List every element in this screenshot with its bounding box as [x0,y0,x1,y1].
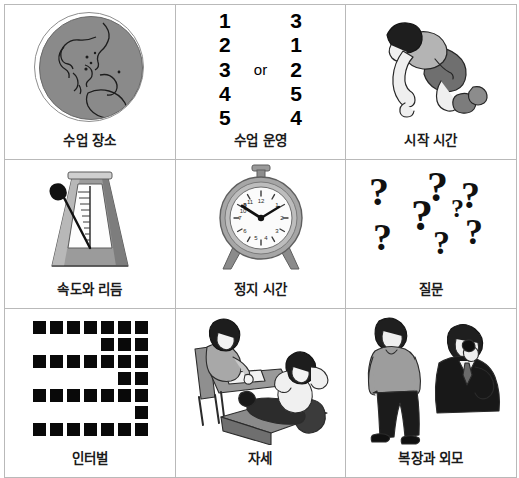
tempo-rhythm-art [5,160,175,280]
cell-lesson-operation[interactable]: 1 2 3 4 5 or 3 1 2 5 4 [176,5,346,160]
interval-cell-empty [118,406,131,419]
globe-icon [34,12,146,124]
cell-caption: 수업 장소 [61,131,118,155]
question-mark-small: ? [451,196,464,222]
interval-cell-filled [33,355,46,368]
cell-caption: 수업 운영 [232,131,289,155]
metronome-icon [34,162,146,278]
conjunction-label: or [254,61,267,78]
lesson-place-art [5,5,175,131]
grid-row-1: 수업 장소 1 2 3 4 5 or [5,5,517,160]
interval-cell-filled [135,423,148,436]
interval-cell-filled [118,389,131,402]
interval-cell-filled [101,423,114,436]
cell-interval[interactable]: 인터벌 [5,308,176,477]
left-sequence: 1 2 3 4 5 [216,9,234,131]
posture-art [176,309,345,449]
interval-cell-filled [67,355,80,368]
interval-cell-filled [118,355,131,368]
seq-item: 3 [287,9,305,33]
cell-questions[interactable]: ? ? ? ? ? ? ? ? 질문 [346,159,517,308]
interval-cell-filled [67,321,80,334]
question-mark: ? [373,218,392,256]
seq-item: 2 [287,58,305,82]
interval-cell-empty [33,372,46,385]
seq-item: 5 [216,106,234,130]
svg-text:11: 11 [246,199,253,205]
interval-cell-empty [67,372,80,385]
interval-cell-filled [67,389,80,402]
interval-cell-empty [33,338,46,351]
interval-cell-filled [84,321,97,334]
cell-lesson-place[interactable]: 수업 장소 [5,5,176,160]
cell-caption: 질문 [417,280,446,304]
seq-item: 4 [287,106,305,130]
globe-sphere [39,16,143,120]
interval-cell-filled [50,423,63,436]
interval-cell-filled [101,389,114,402]
interval-grid-icon [33,321,148,436]
cell-stop-time[interactable]: 12 1 2 3 4 5 6 7 8 9 10 11 [176,159,346,308]
interval-cell-empty [33,406,46,419]
cell-caption: 속도와 리듬 [55,280,125,304]
seq-item: 5 [287,82,305,106]
interval-cell-filled [101,321,114,334]
interval-cell-empty [50,338,63,351]
lesson-operation-art: 1 2 3 4 5 or 3 1 2 5 4 [176,5,345,131]
attire-art [346,309,516,449]
stop-time-art: 12 1 2 3 4 5 6 7 8 9 10 11 [176,160,345,280]
question-mark: ? [465,214,483,250]
interval-art [5,309,175,449]
ordered-list-icon: 1 2 3 4 5 or 3 1 2 5 4 [216,9,305,131]
interval-cell-filled [118,372,131,385]
interval-cell-empty [84,338,97,351]
interval-cell-filled [135,355,148,368]
interval-cell-filled [118,423,131,436]
cell-caption: 정지 시간 [232,280,289,304]
interval-cell-empty [101,372,114,385]
svg-text:12: 12 [257,198,264,204]
interval-cell-empty [50,372,63,385]
interval-cell-filled [84,355,97,368]
grid-row-2: 속도와 리듬 [5,159,517,308]
interval-cell-filled [84,423,97,436]
question-mark: ? [427,166,448,208]
cell-caption: 인터벌 [70,449,111,473]
interval-cell-filled [135,372,148,385]
interval-cell-empty [67,406,80,419]
seq-item: 2 [216,33,234,57]
interval-cell-empty [50,406,63,419]
interval-cell-empty [101,406,114,419]
interval-cell-filled [101,355,114,368]
interval-cell-filled [118,321,131,334]
interval-cell-empty [84,406,97,419]
start-time-art [346,5,516,131]
cell-caption: 자세 [246,449,275,473]
cell-tempo-rhythm[interactable]: 속도와 리듬 [5,159,176,308]
seq-item: 1 [287,33,305,57]
interval-cell-filled [33,321,46,334]
interval-cell-filled [50,389,63,402]
interval-cell-filled [50,321,63,334]
alarm-clock-icon: 12 1 2 3 4 5 6 7 8 9 10 11 [203,161,319,279]
interval-cell-filled [50,355,63,368]
cell-posture[interactable]: 자세 [176,308,346,477]
interval-cell-filled [135,338,148,351]
seq-item: 4 [216,82,234,106]
interval-cell-empty [67,338,80,351]
cell-start-time[interactable]: 시작 시간 [346,5,517,160]
cell-attire-appearance[interactable]: 복장과 외모 [346,308,517,477]
cell-caption: 시작 시간 [402,131,459,155]
question-mark: ? [433,226,450,260]
interval-cell-filled [135,406,148,419]
interval-cell-empty [84,372,97,385]
interval-cell-filled [67,423,80,436]
posture-icon [185,313,337,445]
interval-cell-filled [118,338,131,351]
interval-cell-filled [33,389,46,402]
interval-cell-filled [33,423,46,436]
cell-caption: 복장과 외모 [396,449,466,473]
seq-item: 1 [216,9,234,33]
interval-cell-filled [135,389,148,402]
questions-art: ? ? ? ? ? ? ? ? [346,160,516,280]
